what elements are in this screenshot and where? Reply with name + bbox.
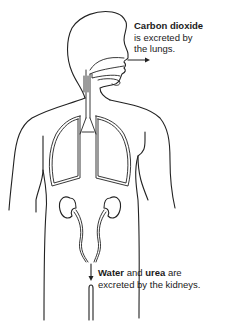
head-outline — [68, 12, 129, 100]
left-ureter — [74, 210, 88, 262]
water-term: Water — [98, 267, 124, 278]
right-kidney — [104, 197, 121, 218]
torso-left-outline — [9, 98, 85, 210]
torso-right-outline — [110, 100, 175, 208]
co2-term: Carbon dioxide — [134, 20, 203, 31]
urine-out-arrow — [89, 264, 94, 281]
kidneys-label: Water and urea are excreted by the kidne… — [98, 267, 226, 290]
bronchi — [80, 118, 96, 134]
left-kidney — [59, 197, 76, 218]
left-lung — [49, 116, 80, 186]
are-text: are — [165, 267, 181, 278]
right-ureter — [94, 210, 106, 262]
lungs-label-line3: the lungs. — [134, 43, 226, 55]
lungs-label: Carbon dioxide is excreted by the lungs. — [134, 20, 226, 55]
lungs-label-line2: is excreted by — [134, 32, 226, 44]
nasal-cavity — [90, 58, 124, 86]
trachea — [84, 70, 90, 118]
and-text: and — [124, 267, 145, 278]
left-side-body — [43, 170, 47, 320]
urea-term: urea — [145, 267, 165, 278]
kidneys-label-line2: excreted by the kidneys. — [98, 279, 226, 291]
right-lung — [96, 116, 131, 186]
right-arm-inner — [138, 132, 148, 200]
right-side-body — [136, 156, 140, 318]
left-arm-inner — [36, 136, 43, 212]
co2-out-arrow — [128, 58, 150, 63]
urethra — [89, 285, 93, 320]
